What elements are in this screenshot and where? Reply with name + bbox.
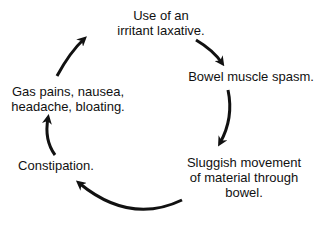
node-text: of material through — [178, 170, 310, 185]
node-text: Use of an — [95, 8, 227, 23]
arrow-laxative-to-spasm — [196, 40, 222, 63]
node-text: Constipation. — [12, 158, 100, 173]
node-gas-pains: Gas pains, nausea, headache, bloating. — [6, 84, 130, 114]
arrow-symptoms-to-laxative — [57, 39, 84, 76]
node-constipation: Constipation. — [12, 158, 100, 173]
node-text: irritant laxative. — [95, 23, 227, 38]
node-irritant-laxative: Use of an irritant laxative. — [95, 8, 227, 38]
node-text: Gas pains, nausea, — [6, 84, 130, 99]
node-text: Bowel muscle spasm. — [185, 69, 317, 84]
node-sluggish-movement: Sluggish movement of material through bo… — [178, 155, 310, 200]
node-text: Sluggish movement — [178, 155, 310, 170]
node-bowel-spasm: Bowel muscle spasm. — [185, 69, 317, 84]
arrow-spasm-to-sluggish — [220, 90, 230, 143]
arrow-constipation-to-symptoms — [47, 118, 55, 155]
arrow-sluggish-to-constipation — [79, 183, 182, 209]
node-text: headache, bloating. — [6, 99, 130, 114]
node-text: bowel. — [178, 185, 310, 200]
